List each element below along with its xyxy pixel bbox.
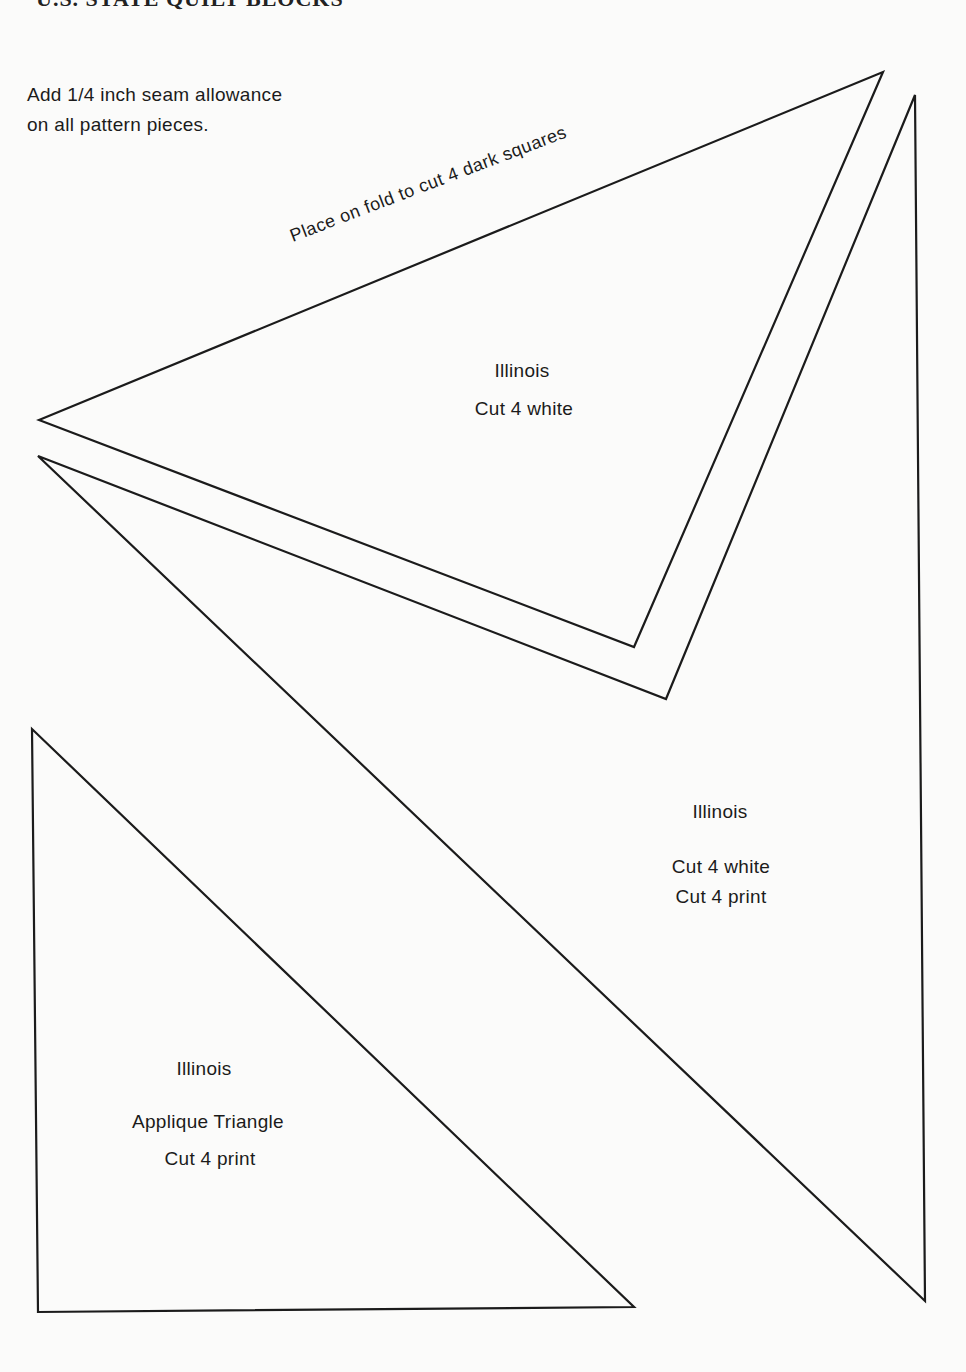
pattern-page: U.S. STATE QUILT BLOCKS Add 1/4 inch sea…	[0, 0, 966, 1372]
piece-2-cut-print: Cut 4 print	[651, 886, 791, 908]
piece-3-subtitle: Applique Triangle	[108, 1111, 308, 1133]
piece-3-name: Illinois	[154, 1058, 254, 1080]
piece-1-cut-white: Cut 4 white	[454, 398, 594, 420]
piece-3-cut-print: Cut 4 print	[140, 1148, 280, 1170]
triangle-piece-outline	[39, 72, 883, 647]
piece-2-name: Illinois	[670, 801, 770, 823]
piece-1-name: Illinois	[472, 360, 572, 382]
piece-2-cut-white: Cut 4 white	[651, 856, 791, 878]
applique-triangle-outline	[32, 729, 634, 1312]
